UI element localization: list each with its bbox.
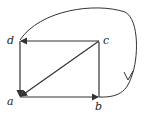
node-label-a: a — [7, 96, 14, 107]
graph-canvas — [0, 0, 145, 114]
edge-c-a — [21, 41, 99, 96]
node-label-c: c — [103, 35, 109, 46]
node-label-d: d — [7, 35, 14, 46]
node-label-b: b — [95, 101, 102, 112]
